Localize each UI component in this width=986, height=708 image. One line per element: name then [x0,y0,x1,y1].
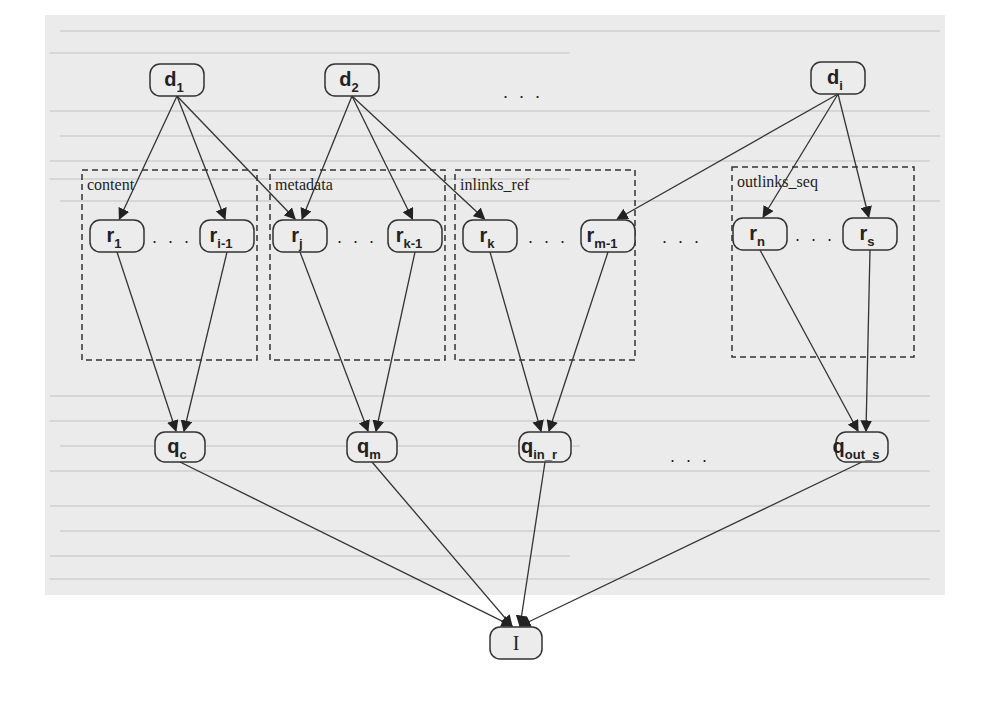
edge-qout_s-I [520,462,862,626]
node-rk: rk [463,220,517,252]
edge-qin_r-I [520,462,545,626]
ellipses: . . .. . .. . .. . .. . .. . .. . . [152,82,835,466]
group-metadata: metadata [270,170,445,360]
node-ri-1: ri-1 [200,220,254,252]
node-qout-s: qout_s [833,432,888,462]
edge-di-rs [838,94,869,217]
group-outlinks-seq: outlinks_seq [732,167,914,357]
node-rn: rn [733,218,787,250]
edge-rk-qin_r [490,252,541,431]
edge-d2-rj [302,96,352,219]
edge-r1-qc [117,252,176,431]
node-rj: rj [273,220,327,252]
ellipsis: . . . [503,82,543,102]
edge-rn-qout_s [760,250,858,431]
group-content: content [82,170,257,360]
node-di: di [811,62,865,94]
svg-text:I: I [513,632,520,654]
edge-d2-rk [352,96,484,219]
node-qin-r: qin_r [519,432,571,462]
group-label: inlinks_ref [460,176,530,193]
node-rm-1: rm-1 [581,220,635,252]
edge-rj-qm [300,252,368,431]
edge-ri-1-qc [184,252,227,431]
node-I: I [490,627,542,659]
edge-d1-r1 [119,96,177,219]
node-r1: r1 [90,220,144,252]
edge-di-rn [763,94,838,217]
representation-groups: contentmetadatainlinks_refoutlinks_seq [82,167,914,360]
edge-qm-I [372,462,512,626]
edge-d1-rj [177,96,295,219]
ellipsis: . . . [152,227,192,247]
ellipsis: . . . [670,446,710,466]
edge-rk-1-qm [376,252,415,431]
group-label: outlinks_seq [737,173,818,191]
node-qm: qm [347,432,397,462]
edge-d1-ri-1 [177,96,225,219]
node-d1: d1 [150,64,204,96]
node-qc: qc [155,432,205,462]
inference-network-diagram: contentmetadatainlinks_refoutlinks_seq d… [0,0,986,708]
group-label: content [87,176,135,193]
node-rs: rs [843,218,897,250]
node-d2: d2 [325,64,379,96]
edge-rm-1-qin_r [549,252,608,431]
ellipsis: . . . [337,227,377,247]
edge-d2-rk-1 [352,96,412,219]
ellipsis: . . . [795,225,835,245]
group-label: metadata [275,176,333,193]
ellipsis: . . . [662,227,702,247]
group-inlinks-ref: inlinks_ref [455,170,635,360]
edge-rs-qout_s [866,250,870,431]
ellipsis: . . . [528,227,568,247]
node-rk-1: rk-1 [388,220,442,252]
edge-qc-I [180,462,512,626]
edge-di-rm-1 [617,94,838,219]
